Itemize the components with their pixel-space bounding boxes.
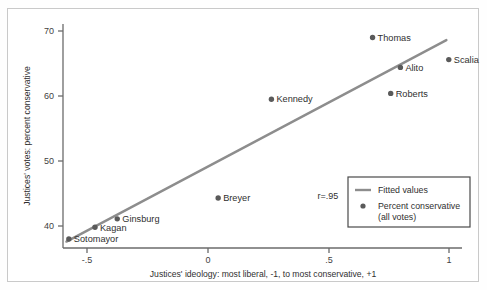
point-marker	[215, 195, 220, 200]
legend-label-percent-conservative: Percent conservative	[378, 201, 460, 211]
point-marker	[370, 35, 375, 40]
data-point-sotomayor[interactable]: Sotomayor	[66, 234, 118, 244]
y-axis-title: Justices' votes: percent conservative	[22, 66, 32, 206]
y-axis-ticks: 70 60 50 40	[44, 26, 63, 231]
data-point-scalia[interactable]: Scalia	[446, 55, 480, 65]
x-axis-ticks: -.5 0 .5 1	[82, 248, 452, 265]
y-tick-label-40: 40	[44, 221, 54, 231]
point-marker	[269, 97, 274, 102]
y-tick-label-70: 70	[44, 26, 54, 36]
data-point-thomas[interactable]: Thomas	[370, 33, 411, 43]
data-point-breyer[interactable]: Breyer	[215, 193, 250, 203]
point-label: Kennedy	[276, 94, 313, 104]
point-label: Alito	[405, 63, 423, 73]
point-marker	[398, 65, 403, 70]
x-tick-label-one: 1	[446, 255, 451, 265]
data-point-kennedy[interactable]: Kennedy	[269, 94, 313, 104]
y-tick-label-60: 60	[44, 91, 54, 101]
point-label: Scalia	[454, 55, 480, 65]
legend-dot-swatch	[360, 203, 365, 208]
scatter-plot: 70 60 50 40 -.5 0 .5 1 Justices' ideolog…	[0, 0, 487, 290]
legend: Fitted values Percent conservative (all …	[348, 177, 470, 227]
point-label: Breyer	[223, 193, 250, 203]
x-tick-label-neg-half: -.5	[82, 255, 93, 265]
point-marker	[92, 225, 97, 230]
legend-label-percent-conservative-sub: (all votes)	[378, 212, 416, 222]
figure-root: 70 60 50 40 -.5 0 .5 1 Justices' ideolog…	[0, 0, 487, 290]
correlation-annotation: r=.95	[318, 191, 339, 201]
point-label: Ginsburg	[122, 214, 159, 224]
y-tick-label-50: 50	[44, 156, 54, 166]
point-label: Roberts	[396, 89, 429, 99]
x-tick-label-zero: 0	[205, 255, 210, 265]
point-label: Sotomayor	[74, 234, 118, 244]
x-axis-title: Justices' ideology: most liberal, -1, to…	[150, 269, 377, 279]
point-marker	[388, 91, 393, 96]
legend-label-fitted: Fitted values	[378, 185, 428, 195]
point-marker	[66, 236, 71, 241]
data-point-ginsburg[interactable]: Ginsburg	[115, 214, 160, 224]
data-point-roberts[interactable]: Roberts	[388, 89, 428, 99]
point-label: Thomas	[378, 33, 412, 43]
x-tick-label-half: .5	[325, 255, 333, 265]
point-marker	[115, 216, 120, 221]
point-marker	[446, 57, 451, 62]
